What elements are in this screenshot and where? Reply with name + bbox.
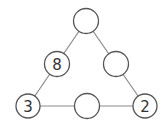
- node-bottom-mid[interactable]: [75, 94, 100, 119]
- node-left-mid-label: 8: [52, 56, 62, 74]
- node-bottom-right-label: 2: [140, 98, 150, 116]
- node-top[interactable]: [74, 9, 99, 34]
- node-bottom-left-label: 3: [23, 98, 33, 116]
- node-right-mid[interactable]: [104, 52, 129, 77]
- triangle-diagram: 8 3 2: [0, 0, 165, 123]
